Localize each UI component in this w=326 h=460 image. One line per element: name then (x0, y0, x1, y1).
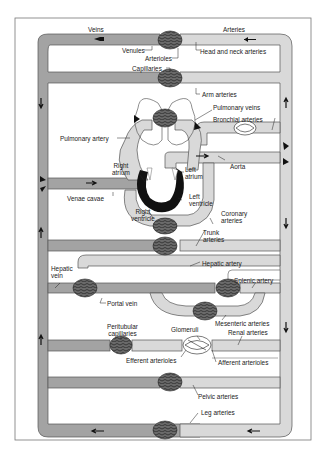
label-peritubular-line2: capillaries (108, 330, 136, 337)
label-left-ventricle: Leftventricle (189, 193, 213, 207)
label-aorta: Aorta (230, 163, 245, 170)
label-peritubular-line1: Peritubular (107, 323, 138, 330)
label-veins: Veins (88, 26, 104, 33)
label-trunk-line2: arteries (203, 236, 224, 243)
label-left-ventricle-line2: ventricle (189, 200, 213, 207)
label-trunk-line1: Trunk (203, 229, 219, 236)
label-pulmonary-veins: Pulmonary veins (213, 104, 260, 111)
label-left-atrium-line1: Left (185, 166, 196, 173)
label-afferent-arterioles: Afferent arterioles (218, 359, 268, 366)
label-hepatic-artery: Hepatic artery (202, 260, 242, 267)
label-right-atrium: Rightatrium (112, 162, 130, 176)
label-hepatic-vein-line2: vein (51, 272, 63, 279)
label-venules: Venules (122, 47, 145, 54)
label-bronchial-arteries: Bronchial arteries (213, 116, 263, 123)
circulatory-diagram (0, 0, 326, 460)
label-coronary-line2: arteries (221, 217, 242, 224)
label-head-neck-arteries: Head and neck arteries (200, 48, 266, 55)
label-pulmonary-artery: Pulmonary artery (60, 135, 109, 142)
label-glomeruli: Glomeruli (171, 326, 198, 333)
label-efferent-arterioles: Efferent arterioles (126, 357, 176, 364)
label-portal-vein: Portal vein (107, 300, 137, 307)
label-coronary-arteries: Coronaryarteries (221, 210, 247, 224)
label-right-atrium-line1: Right (113, 162, 128, 169)
label-left-atrium: Leftatrium (185, 166, 203, 180)
label-peritubular-capillaries: Peritubularcapillaries (107, 323, 138, 337)
label-renal-arteries: Renal arteries (228, 329, 268, 336)
label-right-ventricle-line2: ventricle (131, 215, 155, 222)
label-hepatic-vein-line1: Hepatic (51, 265, 73, 272)
label-right-ventricle-line1: Right (135, 208, 150, 215)
label-left-ventricle-line1: Left (189, 193, 200, 200)
label-mesenteric-arteries: Mesenteric arteries (215, 320, 269, 327)
label-coronary-line1: Coronary (221, 210, 247, 217)
label-splenic-artery: Splenic artery (234, 277, 273, 284)
label-leg-arteries: Leg arteries (201, 409, 235, 416)
label-capillaries: Capillaries (132, 65, 162, 72)
label-left-atrium-line2: atrium (185, 173, 203, 180)
label-right-ventricle: Rightventricle (131, 208, 155, 222)
label-arterioles: Arterioles (145, 55, 172, 62)
label-right-atrium-line2: atrium (112, 169, 130, 176)
label-venae-cavae: Venae cavae (67, 195, 104, 202)
label-trunk-arteries: Trunkarteries (203, 229, 224, 243)
label-arteries: Arteries (223, 26, 245, 33)
label-arm-arteries: Arm arteries (202, 91, 237, 98)
label-hepatic-vein: Hepaticvein (51, 265, 73, 279)
label-pelvic-arteries: Pelvic arteries (198, 393, 238, 400)
